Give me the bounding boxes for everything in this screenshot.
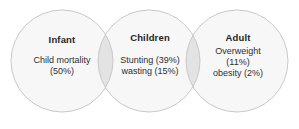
group-line: Overweight (176, 46, 299, 57)
group-lines-adult: Overweight (11%) obesity (2%) (176, 46, 299, 79)
group-label-adult: Adult Overweight (11%) obesity (2%) (176, 32, 299, 78)
group-heading-adult: Adult (176, 32, 299, 44)
venn-diagram: Infant Child mortality (50%) Children St… (0, 0, 299, 129)
group-line: (11%) (176, 57, 299, 68)
group-line: obesity (2%) (176, 68, 299, 79)
